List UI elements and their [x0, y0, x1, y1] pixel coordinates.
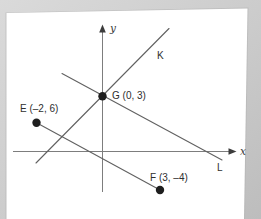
- line-l-label: L: [217, 162, 223, 173]
- point-g: [98, 92, 106, 100]
- point-g-label: G (0, 3): [112, 90, 146, 101]
- point-f-label: F (3, –4): [150, 172, 188, 183]
- x-axis-label: x: [240, 145, 246, 157]
- y-axis-label: y: [109, 22, 117, 34]
- point-e-label: E (–2, 6): [20, 103, 58, 114]
- coordinate-plane-figure: x y K L G (0, 3) E (–2, 6) F (3, –4): [0, 0, 261, 219]
- line-k-label: K: [157, 50, 164, 61]
- point-f: [156, 186, 164, 194]
- scanned-textbook-figure: x y K L G (0, 3) E (–2, 6) F (3, –4): [0, 0, 261, 219]
- point-e: [32, 119, 40, 127]
